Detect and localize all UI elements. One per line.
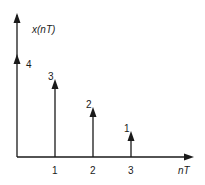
x-tick-label-2: 2 <box>90 166 96 176</box>
y-axis-label: x(nT) <box>32 25 55 35</box>
x-axis-arrow-icon <box>184 154 194 161</box>
y-axis-arrow-icon <box>14 13 21 23</box>
value-label-2: 2 <box>86 100 92 110</box>
impulse-sequence-chart <box>0 0 205 185</box>
x-tick-label-3: 3 <box>128 166 134 176</box>
x-axis-label: nT <box>178 166 190 176</box>
value-label-3: 1 <box>124 124 130 134</box>
value-label-1: 3 <box>48 72 54 82</box>
impulse-arrow-icon <box>14 54 21 64</box>
x-tick-label-1: 1 <box>52 166 58 176</box>
value-label-0: 4 <box>26 60 32 70</box>
